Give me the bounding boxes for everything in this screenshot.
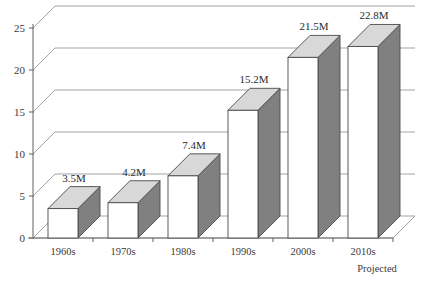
bar-1980s (168, 154, 220, 238)
annotation-group: Projected (357, 263, 397, 274)
bar-value-label-1990s: 15.2M (239, 73, 268, 85)
y-axis-tick-label-15: 15 (14, 106, 26, 118)
y-axis-tick-label-0: 0 (20, 232, 26, 244)
y-axis-tick-label-10: 10 (14, 148, 26, 160)
bar-value-label-1970s: 4.2M (122, 166, 146, 178)
bar-front-face (168, 176, 198, 238)
bar-2010s (348, 24, 400, 238)
bar-front-face (108, 203, 138, 238)
bar-front-face (48, 209, 78, 238)
bar-1970s (108, 181, 160, 238)
bar-group (48, 24, 400, 238)
bar-front-face (288, 57, 318, 238)
y-axis-tick-label-25: 25 (14, 22, 26, 34)
chart-canvas: 0510152025 1960s1970s1980s1990s2000s2010… (0, 0, 436, 287)
bar-side-face (318, 35, 340, 238)
y-axis-tick-labels: 0510152025 (14, 22, 26, 244)
bar-1990s (228, 88, 280, 238)
x-axis-label-1970s: 1970s (110, 246, 135, 257)
bar-side-face (378, 24, 400, 238)
x-axis-label-1960s: 1960s (50, 246, 75, 257)
bar-front-face (228, 110, 258, 238)
bar-value-label-1960s: 3.5M (62, 172, 86, 184)
bar-side-face (258, 88, 280, 238)
bar-value-label-2000s: 21.5M (299, 20, 328, 32)
bar-1960s (48, 187, 100, 238)
gridline-y-25 (33, 6, 415, 28)
bar-2000s (288, 35, 340, 238)
x-axis-label-2010s: 2010s (350, 246, 375, 257)
y-axis-tick-label-5: 5 (20, 190, 26, 202)
bar-front-face (348, 46, 378, 238)
annotation-projected: Projected (357, 263, 397, 274)
bar-value-label-2010s: 22.8M (359, 9, 388, 21)
y-axis-tick-label-20: 20 (14, 64, 26, 76)
x-axis-label-1980s: 1980s (170, 246, 195, 257)
bar-value-label-1980s: 7.4M (182, 139, 206, 151)
x-axis-category-labels: 1960s1970s1980s1990s2000s2010s (50, 246, 375, 257)
bar-chart-figure: 0510152025 1960s1970s1980s1990s2000s2010… (0, 0, 436, 287)
x-axis-label-1990s: 1990s (230, 246, 255, 257)
x-axis-label-2000s: 2000s (290, 246, 315, 257)
